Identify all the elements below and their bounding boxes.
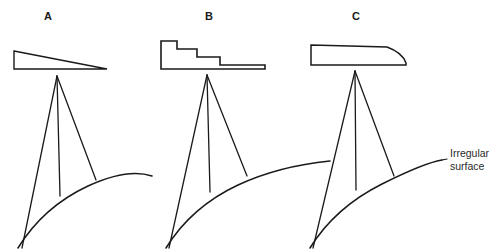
panel-a-irregular-surface — [18, 173, 152, 248]
annotation-leader-line — [442, 159, 447, 160]
diagram-svg: A B C — [0, 0, 498, 251]
panel-a-label: A — [44, 10, 52, 22]
panel-a-beam-right — [57, 76, 96, 180]
panel-b-irregular-surface — [166, 161, 330, 248]
panel-a-group: A — [14, 10, 152, 248]
panel-b-beam-center — [207, 75, 210, 192]
panel-a-aperture-tapered-wedge — [14, 51, 107, 69]
panel-a-beam-left — [22, 76, 57, 248]
annotation-line-1: Irregular — [450, 147, 490, 159]
panel-c-beam-right — [355, 71, 394, 176]
panel-c-beam-left — [313, 71, 355, 248]
annotation-line-2: surface — [450, 160, 485, 172]
irregular-surface-annotation: Irregular surface — [442, 147, 490, 172]
panel-c-beam-center — [355, 71, 356, 190]
panel-a-beam-center — [57, 76, 60, 196]
panel-b-label: B — [205, 10, 213, 22]
panel-b-group: B — [161, 10, 330, 248]
figure-canvas: A B C — [0, 0, 498, 251]
panel-c-aperture-curved-airfoil — [311, 45, 406, 65]
panel-b-beam-left — [169, 75, 207, 248]
panel-c-group: C — [310, 10, 442, 248]
panel-b-aperture-stepped-staircase — [161, 41, 265, 69]
panel-c-label: C — [352, 10, 360, 22]
panel-c-irregular-surface — [310, 160, 442, 248]
panel-b-beam-right — [207, 75, 247, 176]
